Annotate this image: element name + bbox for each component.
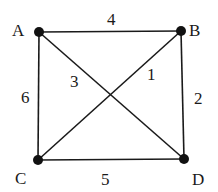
edge-weight-b-c: 1 — [147, 65, 156, 84]
edge-weight-b-d: 2 — [194, 89, 203, 108]
node-label-a: A — [12, 21, 25, 40]
edge-weight-a-c: 6 — [21, 88, 30, 107]
edge-weight-c-d: 5 — [101, 170, 110, 189]
edge-a-b — [39, 31, 181, 32]
node-c — [33, 155, 43, 165]
node-b — [176, 26, 186, 36]
edges-group — [38, 31, 184, 160]
node-label-b: B — [189, 21, 200, 40]
edge-b-d — [181, 31, 184, 159]
edge-c-d — [38, 159, 184, 160]
node-label-d: D — [192, 170, 204, 189]
node-label-c: C — [15, 169, 26, 188]
node-d — [179, 154, 189, 164]
edge-weight-a-b: 4 — [107, 10, 116, 29]
weighted-graph-diagram: 425631ABCD — [0, 0, 218, 192]
edge-weight-a-d: 3 — [70, 72, 79, 91]
edge-a-c — [38, 32, 39, 160]
node-a — [34, 27, 44, 37]
